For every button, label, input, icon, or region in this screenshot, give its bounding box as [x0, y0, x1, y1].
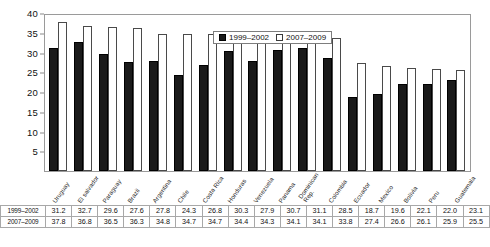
table-cell-value: 23.1	[463, 206, 489, 217]
bar-series-a	[124, 62, 133, 171]
category-label: Ecuador	[353, 181, 372, 204]
bar-series-a	[99, 54, 108, 171]
table-cell-value: 34.1	[306, 217, 332, 228]
table-cell-value: 34.8	[150, 217, 176, 228]
bar-group	[146, 15, 171, 171]
bar-series-a	[373, 94, 382, 171]
bar-series-b	[133, 28, 142, 171]
table-row-header: 2007–2009	[1, 217, 46, 228]
bar-group	[369, 15, 394, 171]
table-cell-value: 30.3	[228, 206, 254, 217]
category-label: Chile	[177, 188, 191, 204]
table-cell-value: 36.8	[72, 217, 98, 228]
legend-entry: 1999–2002	[219, 34, 269, 42]
table-cell-value: 34.4	[228, 217, 254, 228]
y-axis-tick-label: 40	[27, 9, 38, 19]
plot-area: 1999–20022007–2009	[44, 14, 471, 172]
table-cell-value: 19.6	[385, 206, 411, 217]
table-cell-value: 34.7	[176, 217, 202, 228]
table-cell-value: 18.7	[359, 206, 385, 217]
category-axis-labels: UruguayEl salvadorParaguayBrazilArgentin…	[44, 172, 471, 205]
table-cell-value: 26.8	[202, 206, 228, 217]
category-label-cell: El salvador	[69, 172, 94, 205]
category-label: Guatemala	[453, 175, 476, 204]
bar-series-b	[382, 66, 391, 171]
category-label-cell: Paraguay	[94, 172, 119, 205]
category-label-cell: Panama	[270, 172, 295, 205]
table-cell-value: 27.8	[150, 206, 176, 217]
data-table-body: 1999–200231.232.729.627.627.824.326.830.…	[1, 206, 490, 228]
category-label: Mexico	[378, 184, 395, 204]
legend-entry: 2007–2009	[276, 34, 326, 42]
category-label-cell: Ecuador	[346, 172, 371, 205]
bar-group	[419, 15, 444, 171]
category-label-cell: Costa Rica	[195, 172, 220, 205]
bar-series-a	[423, 84, 432, 171]
legend-swatch-filled	[219, 34, 226, 41]
table-cell-value: 33.8	[333, 217, 359, 228]
table-cell-value: 31.1	[306, 206, 332, 217]
bar-group	[394, 15, 419, 171]
bar-series-a	[298, 48, 307, 171]
table-cell-value: 36.5	[98, 217, 124, 228]
table-cell-value: 34.1	[280, 217, 306, 228]
bar-series-a	[174, 75, 183, 171]
bar-series-a	[224, 51, 233, 171]
category-label: Uruguay	[51, 181, 70, 204]
table-cell-value: 26.1	[411, 217, 437, 228]
table-cell-value: 29.6	[98, 206, 124, 217]
category-label: Bolivia	[403, 185, 419, 204]
bar-series-a	[447, 80, 456, 171]
y-axis-tick-label: 20	[27, 88, 38, 98]
bar-group	[444, 15, 469, 171]
y-axis: 403530252015105	[0, 14, 44, 172]
y-axis-tick-label: 30	[27, 49, 38, 59]
category-label-cell: Honduras	[220, 172, 245, 205]
data-table: 1999–200231.232.729.627.627.824.326.830.…	[0, 205, 490, 228]
table-cell-value: 34.7	[202, 217, 228, 228]
y-axis-tick-label: 5	[33, 148, 38, 158]
table-cell-value: 36.3	[124, 217, 150, 228]
category-label-cell: Uruguay	[44, 172, 69, 205]
bar-series-b	[432, 69, 441, 171]
table-cell-value: 27.9	[254, 206, 280, 217]
category-label-cell: Venezuela	[245, 172, 270, 205]
table-cell-value: 22.0	[437, 206, 463, 217]
bar-series-a	[398, 84, 407, 171]
bar-group	[345, 15, 370, 171]
y-axis-tick-label: 15	[27, 108, 38, 118]
table-row-header: 1999–2002	[1, 206, 46, 217]
legend-label: 1999–2002	[229, 34, 269, 42]
table-row: 2007–200937.836.836.536.334.834.734.734.…	[1, 217, 490, 228]
bar-series-b	[282, 36, 291, 171]
category-label-cell: Argentina	[145, 172, 170, 205]
chart-legend: 1999–20022007–2009	[213, 31, 332, 44]
bar-group	[96, 15, 121, 171]
y-axis-tick-label: 25	[27, 69, 38, 79]
bar-series-b	[257, 36, 266, 171]
bar-series-a	[199, 65, 208, 171]
bar-series-b	[183, 34, 192, 171]
bar-series-a	[149, 61, 158, 171]
table-cell-value: 28.5	[333, 206, 359, 217]
table-cell-value: 30.7	[280, 206, 306, 217]
table-cell-value: 26.6	[385, 217, 411, 228]
table-cell-value: 22.1	[411, 206, 437, 217]
bar-group	[121, 15, 146, 171]
bar-series-b	[158, 34, 167, 171]
table-cell-value: 32.7	[72, 206, 98, 217]
bar-series-b	[456, 70, 465, 171]
table-cell-value: 37.8	[46, 217, 72, 228]
table-cell-value: 34.3	[254, 217, 280, 228]
category-label: Panama	[277, 181, 296, 204]
bar-series-a	[273, 50, 282, 171]
bar-series-a	[348, 97, 357, 171]
category-label: Brazil	[127, 187, 141, 204]
table-row: 1999–200231.232.729.627.627.824.326.830.…	[1, 206, 490, 217]
bar-series-b	[108, 27, 117, 171]
bar-series-a	[74, 42, 83, 171]
bar-series-b	[332, 38, 341, 172]
bar-group	[170, 15, 195, 171]
bar-group	[46, 15, 71, 171]
